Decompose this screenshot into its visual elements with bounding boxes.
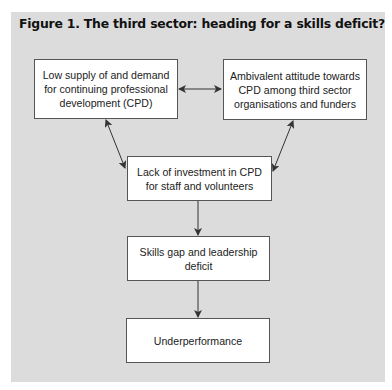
node-lack-of-investment: Lack of investment in CPD for staff and … [127, 156, 272, 201]
figure-title: Figure 1. The third sector: heading for … [19, 16, 385, 31]
node-skills-gap: Skills gap and leadership deficit [127, 236, 270, 281]
node-ambivalent-attitude: Ambivalent attitude towards CPD among th… [223, 59, 367, 120]
node-low-supply: Low supply of and demand for continuing … [34, 59, 178, 119]
node-underperformance: Underperformance [126, 318, 270, 363]
